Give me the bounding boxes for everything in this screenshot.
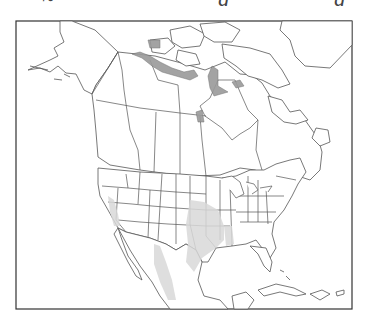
cuba (258, 284, 306, 296)
range-arctic-island (148, 40, 160, 48)
yucatan (232, 292, 254, 309)
north-america-range-map (0, 0, 365, 324)
hispaniola (310, 290, 330, 300)
puerto-rico (336, 290, 344, 296)
arctic-island (200, 22, 240, 42)
bahamas (280, 270, 290, 280)
greenland (280, 21, 352, 68)
arctic-island (170, 26, 205, 48)
